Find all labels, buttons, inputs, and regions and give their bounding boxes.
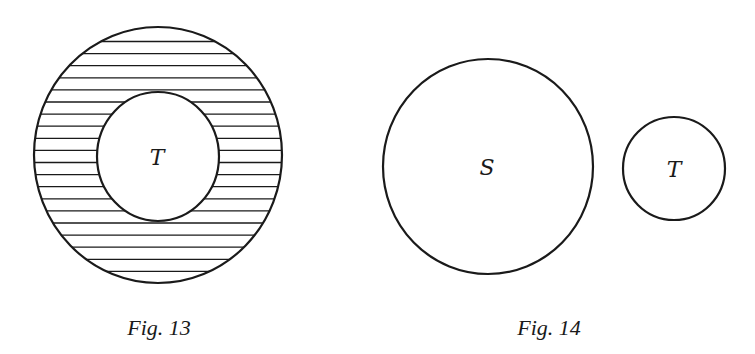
set-t-label: T bbox=[667, 157, 684, 182]
set-s-label: S bbox=[479, 155, 494, 180]
figure-13-caption: Fig. 13 bbox=[126, 315, 191, 340]
figure-14-caption: Fig. 14 bbox=[516, 315, 581, 340]
figure-13: T Fig. 13 bbox=[32, 27, 284, 340]
figure-14: S T Fig. 14 bbox=[383, 59, 725, 340]
set-t-label: T bbox=[150, 145, 167, 170]
venn-diagram-canvas: T Fig. 13 S T Fig. 14 bbox=[0, 0, 755, 354]
